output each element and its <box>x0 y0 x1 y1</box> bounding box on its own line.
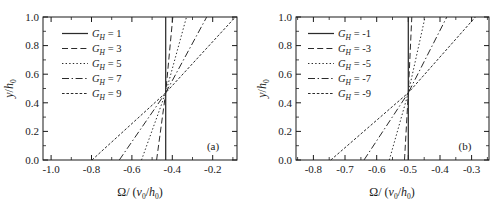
plot-a-yticklabels: 0.0 0.2 0.4 0.6 0.8 1.0 <box>25 11 39 166</box>
plot-a-legend: GH = 1 GH = 3 GH = 5 GH = 7 GH = 9 <box>62 28 121 102</box>
plot-b-frame <box>296 17 489 160</box>
ylabel-sub0: 0 <box>9 79 18 83</box>
xtick-label: -0.7 <box>336 163 354 175</box>
xlabel-paren-close: ) <box>159 185 163 199</box>
xtick-label: -0.4 <box>164 163 182 175</box>
xlabel-paren-close: ) <box>411 185 415 199</box>
panel-tag-b: (b) <box>459 140 472 153</box>
ytick-label: 0.4 <box>278 97 292 109</box>
ylabel-sub0: 0 <box>262 79 271 83</box>
legend-label-gh-neg3: GH = -3 <box>338 43 371 57</box>
panel-tag-a: (a) <box>207 140 220 153</box>
chart-panel-b: -0.8 -0.7 -0.6 -0.5 -0.4 -0.3 0.0 0.2 0.… <box>251 0 502 212</box>
plot-b-yminorticks <box>296 31 489 145</box>
legend-label-gh-neg1: GH = -1 <box>338 28 371 42</box>
plot-b-xlabel: Ω/ (v0/h0) <box>369 185 414 201</box>
xlabel-omega: Ω <box>117 185 126 199</box>
curve-gh-7 <box>119 17 206 160</box>
xtick-label: -0.6 <box>368 163 386 175</box>
plot-a-xlabel: Ω/ (v0/h0) <box>117 185 162 201</box>
xtick-label: -0.3 <box>463 163 481 175</box>
xtick-label: -0.2 <box>204 163 221 175</box>
legend-label-gh-9: GH = 9 <box>92 88 121 102</box>
ytick-label: 0.2 <box>25 125 39 137</box>
curve-gh-3 <box>157 17 173 160</box>
plot-b-legend: GH = -1 GH = -3 GH = -5 GH = -7 GH = -9 <box>308 28 371 102</box>
ytick-label: 0.6 <box>25 68 39 80</box>
plot-a-xticklabels: -1.0 -0.8 -0.6 -0.4 -0.2 <box>42 163 221 175</box>
chart-panel-a: -1.0 -0.8 -0.6 -0.4 -0.2 0.0 0.2 0.4 0.6… <box>0 0 251 212</box>
xtick-label: -0.4 <box>431 163 449 175</box>
figure-container: -1.0 -0.8 -0.6 -0.4 -0.2 0.0 0.2 0.4 0.6… <box>0 0 502 212</box>
plot-b-svg: -0.8 -0.7 -0.6 -0.5 -0.4 -0.3 0.0 0.2 0.… <box>251 0 502 212</box>
ytick-label: 0.8 <box>278 39 292 51</box>
svg-text:y/h0: y/h0 <box>2 79 18 99</box>
ytick-label: 0.8 <box>25 39 39 51</box>
plot-b-yticks <box>296 17 489 160</box>
svg-text:y/h0: y/h0 <box>255 79 271 99</box>
xtick-label: -0.8 <box>83 163 101 175</box>
plot-b-xticklabels: -0.8 -0.7 -0.6 -0.5 -0.4 -0.3 <box>305 163 481 175</box>
plot-a-ylabel: y/h0 <box>2 79 18 99</box>
xlabel-slash: / <box>378 185 382 199</box>
legend-label-gh-5: GH = 5 <box>92 58 121 72</box>
xtick-label: -1.0 <box>42 163 60 175</box>
legend-label-gh-1: GH = 1 <box>92 28 121 42</box>
legend-label-gh-neg7: GH = -7 <box>338 73 371 87</box>
plot-a-xticks <box>51 17 213 160</box>
ytick-label: 1.0 <box>25 11 39 23</box>
ytick-label: 0.2 <box>278 125 292 137</box>
xtick-label: -0.8 <box>305 163 323 175</box>
plot-a-yticks <box>43 17 237 160</box>
xlabel-slash: / <box>126 185 130 199</box>
curve-gh-5 <box>142 17 187 160</box>
legend-label-gh-7: GH = 7 <box>92 73 121 87</box>
xtick-label: -0.5 <box>400 163 418 175</box>
plot-b-yticklabels: 0.0 0.2 0.4 0.6 0.8 1.0 <box>278 11 292 166</box>
ytick-label: 0.0 <box>278 154 292 166</box>
plot-b-ylabel: y/h0 <box>255 79 271 99</box>
xlabel-omega: Ω <box>369 185 378 199</box>
ytick-label: 0.4 <box>25 97 39 109</box>
legend-label-gh-neg9: GH = -9 <box>338 88 371 102</box>
curve-gh-neg5 <box>389 17 425 160</box>
legend-label-gh-neg5: GH = -5 <box>338 58 371 72</box>
ytick-label: 1.0 <box>278 11 292 23</box>
ytick-label: 0.0 <box>25 154 39 166</box>
ytick-label: 0.6 <box>278 68 292 80</box>
plot-b-xminorticks <box>298 17 488 160</box>
plot-a-svg: -1.0 -0.8 -0.6 -0.4 -0.2 0.0 0.2 0.4 0.6… <box>0 0 251 212</box>
legend-label-gh-3: GH = 3 <box>92 43 121 57</box>
plot-a-frame <box>43 17 237 160</box>
xtick-label: -0.6 <box>123 163 141 175</box>
